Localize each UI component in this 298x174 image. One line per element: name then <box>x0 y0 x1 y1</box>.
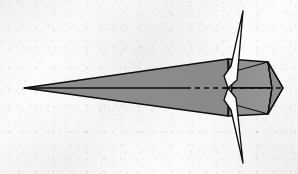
dart-glider-drawing <box>0 0 298 174</box>
figure-root <box>0 0 298 174</box>
